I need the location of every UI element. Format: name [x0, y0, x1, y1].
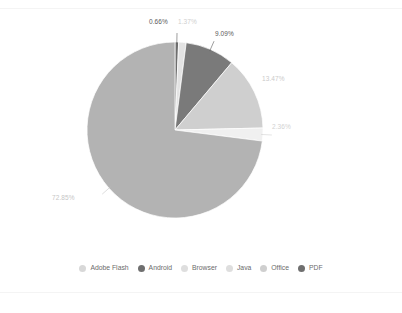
- legend-item-label: PDF: [309, 265, 323, 272]
- pie-chart-svg: [0, 0, 402, 250]
- slice-percentage-label: 0.66%: [149, 19, 168, 26]
- legend-swatch-icon: [138, 265, 145, 272]
- pie-slice-group: [87, 42, 263, 218]
- legend-item[interactable]: Java: [226, 265, 251, 272]
- legend-item-label: Browser: [192, 265, 217, 272]
- legend-item-label: Android: [149, 265, 172, 272]
- legend-swatch-icon: [298, 265, 305, 272]
- pie-chart: 0.66%1.37%9.09%13.47%2.36%72.85%: [0, 0, 402, 250]
- legend-swatch-icon: [181, 265, 188, 272]
- legend-item[interactable]: Office: [260, 265, 289, 272]
- legend-item[interactable]: Adobe Flash: [79, 265, 128, 272]
- legend-item-label: Java: [237, 265, 251, 272]
- slice-percentage-label: 72.85%: [52, 195, 75, 202]
- legend-swatch-icon: [226, 265, 233, 272]
- legend-item[interactable]: Android: [138, 265, 172, 272]
- slice-percentage-label: 2.36%: [272, 124, 291, 131]
- slice-leader-line: [102, 187, 110, 194]
- slice-leader-line: [210, 41, 214, 51]
- pie-chart-page: 0.66%1.37%9.09%13.47%2.36%72.85% Adobe F…: [0, 0, 402, 313]
- slice-percentage-label: 9.09%: [215, 31, 234, 38]
- slice-percentage-label: 13.47%: [262, 76, 285, 83]
- legend-item[interactable]: PDF: [298, 265, 323, 272]
- slice-percentage-label: 1.37%: [178, 19, 197, 26]
- legend-item-label: Office: [271, 265, 289, 272]
- bottom-divider: [0, 292, 402, 293]
- legend-swatch-icon: [260, 265, 267, 272]
- legend-swatch-icon: [79, 265, 86, 272]
- legend-item-label: Adobe Flash: [90, 265, 128, 272]
- legend-item[interactable]: Browser: [181, 265, 217, 272]
- chart-legend: Adobe FlashAndroidBrowserJavaOfficePDF: [0, 258, 402, 278]
